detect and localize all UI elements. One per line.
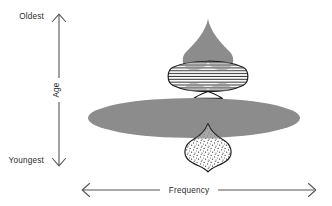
axis-title-age: Age [52,82,61,97]
curve-neck-2-3-body [194,91,223,98]
curve-shape-2-body [168,61,248,91]
curve-neck-2-to-3 [194,91,223,98]
frequency-axis-group: Frequency [82,183,316,197]
battleship-curve-diagram: Oldest Youngest Age [0,0,332,206]
curve-type-3-solid-gray-wide-ellipse [88,98,300,138]
axis-title-frequency: Frequency [169,186,210,195]
axis-label-youngest: Youngest [9,156,45,165]
curve-type-2-horizontal-lines-ellipse [168,61,248,91]
figure-canvas: Oldest Youngest Age [0,0,332,206]
age-axis-group: Oldest Youngest Age [9,12,66,166]
curve-shape-3-body [88,98,300,138]
axis-label-oldest: Oldest [19,12,44,21]
